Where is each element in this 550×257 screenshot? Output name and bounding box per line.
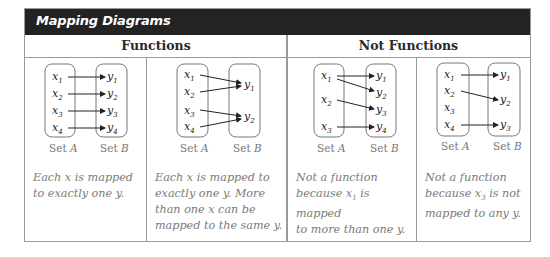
x1-label: x1 <box>52 70 63 85</box>
svg-text:x3: x3 <box>321 120 332 135</box>
svg-text:Set B: Set B <box>100 142 129 154</box>
svg-text:x1: x1 <box>321 69 332 84</box>
svg-text:y1: y1 <box>243 78 255 93</box>
svg-text:y3: y3 <box>375 103 387 118</box>
svg-text:y3: y3 <box>499 118 511 133</box>
svg-text:y1: y1 <box>499 68 511 83</box>
mapping-diagram: x1 x2 x3 x4 y1 y2 y3 y4 Set A Set B <box>25 58 146 168</box>
svg-text:y4: y4 <box>106 121 118 136</box>
svg-text:Set A: Set A <box>317 142 346 154</box>
mapping-diagram: x1 x2 x3 x4 y1 y2 Set A Set B <box>147 58 286 168</box>
svg-text:x3: x3 <box>444 101 455 116</box>
x3-label: x3 <box>52 104 63 119</box>
svg-text:x1: x1 <box>444 68 455 83</box>
diagram-cell-one-to-one: x1 x2 x3 x4 y1 y2 y3 y4 Set A Set B Each <box>25 58 146 242</box>
svg-text:x3: x3 <box>184 104 195 119</box>
svg-text:y2: y2 <box>375 86 387 101</box>
mapping-diagram: x1 x2 x3 y1 y2 y3 y4 Set A Set B <box>288 58 416 168</box>
svg-text:x4: x4 <box>184 120 195 135</box>
functions-header: Functions <box>25 35 287 58</box>
mapping-diagrams-table: Mapping Diagrams Functions Not Functions… <box>24 8 531 242</box>
svg-text:x4: x4 <box>444 118 455 133</box>
svg-text:y1: y1 <box>106 70 118 85</box>
svg-text:x2: x2 <box>321 93 332 108</box>
caption: Not a function because x1 is mapped to m… <box>296 170 416 238</box>
caption: Each x is mapped to exactly one y. More … <box>155 170 282 234</box>
not-functions-header: Not Functions <box>287 35 530 58</box>
svg-text:x1: x1 <box>184 68 195 83</box>
svg-text:x2: x2 <box>184 85 195 100</box>
svg-text:y3: y3 <box>106 104 118 119</box>
mapping-diagram: x1 x2 x3 x4 y1 y2 y3 Set A Set B <box>417 58 531 168</box>
svg-text:Set A: Set A <box>49 142 78 154</box>
svg-text:y2: y2 <box>243 110 255 125</box>
title-bar: Mapping Diagrams <box>25 9 530 35</box>
x2-label: x2 <box>52 87 63 102</box>
svg-text:y2: y2 <box>499 93 511 108</box>
svg-text:Set A: Set A <box>180 142 209 154</box>
svg-text:Set A: Set A <box>441 140 470 152</box>
diagram-cell-many-to-one: x1 x2 x3 x4 y1 y2 Set A Set B Each x is … <box>147 58 286 242</box>
x4-label: x4 <box>52 121 63 136</box>
svg-text:y4: y4 <box>375 120 387 135</box>
svg-text:Set B: Set B <box>233 142 262 154</box>
svg-text:y1: y1 <box>375 69 387 84</box>
svg-text:Set B: Set B <box>370 142 399 154</box>
diagram-cell-one-to-many: x1 x2 x3 y1 y2 y3 y4 Set A Set B Not a f… <box>288 58 416 242</box>
caption: Each x is mapped to exactly one y. <box>33 170 133 202</box>
table-title: Mapping Diagrams <box>36 13 170 28</box>
svg-text:x2: x2 <box>444 84 455 99</box>
caption: Not a function because x3 is not mapped … <box>425 170 521 222</box>
svg-text:y2: y2 <box>106 87 118 102</box>
svg-text:Set B: Set B <box>493 140 522 152</box>
diagram-cell-unmapped: x1 x2 x3 x4 y1 y2 y3 Set A Set B Not a f… <box>417 58 531 242</box>
